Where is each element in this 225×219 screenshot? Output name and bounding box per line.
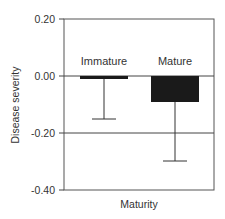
y-axis-title: Disease severity	[9, 66, 21, 144]
x-axis-title: Maturity	[120, 198, 158, 210]
y-tick-label: -0.40	[31, 184, 55, 196]
y-tick-label: 0.00	[35, 70, 56, 82]
category-label: Immature	[81, 55, 127, 67]
y-tick-label: 0.20	[35, 13, 56, 25]
bar-immature: Immature	[80, 55, 128, 119]
plot-frame	[64, 19, 214, 190]
bar-chart: 0.20 0.00 -0.20 -0.40 Disease severity I…	[0, 0, 225, 219]
bar-mature: Mature	[151, 55, 199, 161]
y-tick-label: -0.20	[31, 127, 55, 139]
category-label: Mature	[158, 55, 192, 67]
y-axis: 0.20 0.00 -0.20 -0.40	[31, 13, 64, 196]
